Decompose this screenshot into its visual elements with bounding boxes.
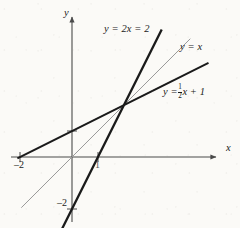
equation-half-prefix: y = (163, 86, 178, 97)
y-axis-label: y (64, 8, 69, 19)
x-tick-label-1: 1 (95, 160, 100, 170)
line-graph-figure: y = 2x = 2 y = x y =12x + 1 y x –2 1 –2 (0, 0, 240, 228)
line-half-x-plus-1 (17, 63, 208, 158)
x-tick-label-neg2: –2 (14, 160, 24, 170)
y-tick-label-neg2: –2 (57, 198, 67, 208)
line-identity (21, 39, 190, 208)
equation-label-half-slope-line: y =12x + 1 (163, 84, 205, 100)
equation-label-steep-line: y = 2x = 2 (104, 24, 150, 35)
x-axis-label: x (226, 143, 231, 154)
line-steep (58, 30, 162, 228)
equation-half-suffix: x + 1 (182, 86, 205, 97)
equation-label-identity-line: y = x (180, 42, 202, 53)
